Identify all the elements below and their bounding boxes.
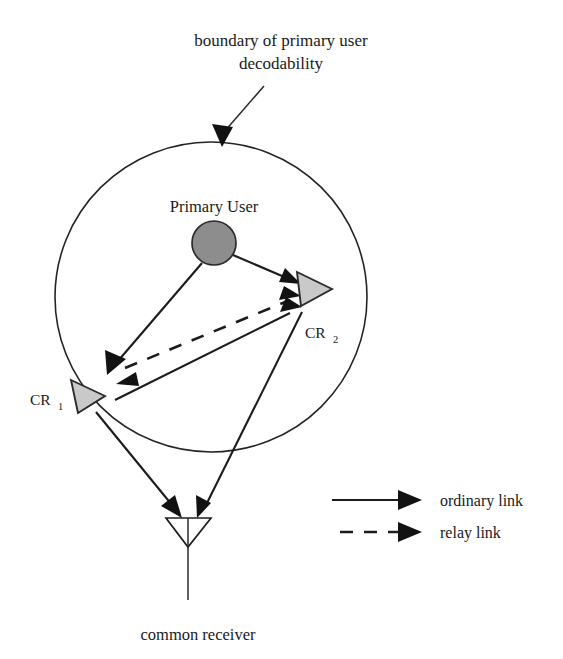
boundary-leader-line <box>224 86 264 132</box>
figure-root: boundary of primary user decodability Pr… <box>0 0 563 659</box>
link-primary-to-cr2 <box>233 255 289 279</box>
arrowhead-relay-to-cr1 <box>116 372 139 386</box>
diagram-canvas: boundary of primary user decodability Pr… <box>0 0 563 659</box>
node-cr2-subscript: 2 <box>333 334 338 345</box>
arrowhead-cr1-to-cr2 <box>280 297 302 312</box>
arrowhead-relay-to-cr2 <box>279 286 301 300</box>
node-cr1-label: CR <box>30 391 51 408</box>
node-cr2[interactable] <box>297 272 332 306</box>
legend-item-relay-label: relay link <box>440 524 501 542</box>
boundary-circle <box>55 142 367 452</box>
node-primary-user[interactable] <box>192 221 236 265</box>
figure-caption: common receiver <box>141 625 256 644</box>
legend-relay-arrowhead <box>398 522 422 542</box>
node-cr2-label: CR <box>305 324 326 341</box>
legend-ordinary-arrowhead <box>398 490 422 510</box>
legend-item-ordinary-label: ordinary link <box>440 492 523 510</box>
figure-title-line2: decodability <box>239 54 324 73</box>
node-cr1[interactable] <box>71 380 105 413</box>
arrowhead-cr1-to-receiver <box>161 495 182 518</box>
link-cr2-to-receiver <box>206 312 302 505</box>
link-cr1-to-receiver <box>96 412 172 505</box>
relay-link-cr1-to-cr2 <box>125 300 290 368</box>
figure-title-line1: boundary of primary user <box>194 31 368 50</box>
node-cr1-subscript: 1 <box>58 401 63 412</box>
node-primary-user-label: Primary User <box>170 197 259 216</box>
link-primary-to-cr1 <box>118 263 202 361</box>
